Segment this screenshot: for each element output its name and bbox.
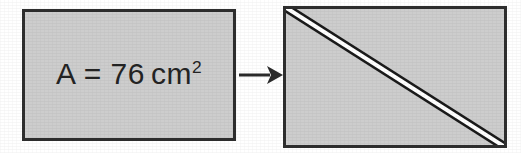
rectangle-after (283, 6, 507, 148)
figure-container: A = 76cm2 (0, 0, 521, 153)
area-label-unit: cm (151, 57, 192, 90)
area-label: A = 76cm2 (25, 59, 233, 89)
diagonal-cut-line (286, 9, 504, 145)
area-label-equals: = (84, 57, 102, 90)
area-label-exponent: 2 (192, 57, 202, 77)
rectangle-before: A = 76cm2 (22, 9, 236, 141)
arrow-right-icon (239, 62, 283, 88)
area-label-variable: A (56, 57, 75, 90)
area-label-value: 76 (111, 57, 145, 90)
